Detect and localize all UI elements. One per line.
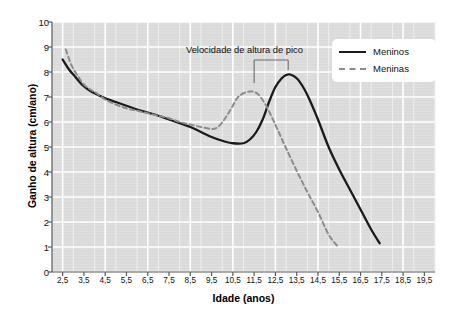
- solid-line-icon: [339, 47, 366, 57]
- peak-velocity-annotation-label: Velocidade de altura de pico: [186, 45, 303, 55]
- legend-item-meninos: Meninos: [332, 43, 436, 60]
- chart-legend: Meninos Meninas: [332, 39, 436, 82]
- growth-velocity-chart: Ganho de altura (cm/ano) Idade (anos) 01…: [0, 0, 453, 313]
- legend-label-meninos: Meninos: [373, 46, 409, 57]
- legend-label-meninas: Meninas: [373, 63, 409, 74]
- legend-item-meninas: Meninas: [332, 60, 436, 77]
- dashed-line-icon: [339, 64, 366, 74]
